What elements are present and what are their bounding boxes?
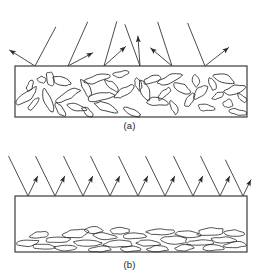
panel-b <box>9 156 251 252</box>
figure-root: (a) (b) <box>0 0 259 279</box>
reflected-ray <box>220 176 230 196</box>
incident-ray <box>9 156 28 196</box>
incident-ray <box>68 22 88 66</box>
panel-a <box>10 22 248 119</box>
incident-ray <box>158 22 172 66</box>
reflected-ray <box>83 176 93 196</box>
panel-a-caption: (a) <box>0 120 259 131</box>
reflected-ray <box>193 176 203 196</box>
incident-ray <box>104 22 117 66</box>
reflected-ray <box>243 180 251 196</box>
reflected-ray <box>55 176 65 196</box>
panel-b-rays <box>9 156 251 196</box>
incident-ray <box>125 25 140 66</box>
incident-ray <box>35 27 56 66</box>
panel-b-caption: (b) <box>0 259 259 270</box>
incident-ray <box>36 156 55 196</box>
reflected-ray <box>68 53 93 66</box>
reflected-ray <box>10 50 35 66</box>
incident-ray <box>225 160 243 196</box>
reflected-ray <box>110 176 120 196</box>
reflected-ray <box>205 48 229 66</box>
reflection-comparison-figure <box>0 0 259 279</box>
reflected-ray <box>28 176 38 196</box>
panel-a-rays <box>10 22 229 66</box>
incident-ray <box>119 156 138 196</box>
incident-ray <box>188 23 205 66</box>
incident-ray <box>91 156 110 196</box>
reflected-ray <box>165 176 175 196</box>
incident-ray <box>64 156 83 196</box>
incident-ray <box>201 156 220 196</box>
reflected-ray <box>104 47 126 66</box>
reflected-ray <box>138 176 148 196</box>
incident-ray <box>146 156 165 196</box>
incident-ray <box>174 156 193 196</box>
